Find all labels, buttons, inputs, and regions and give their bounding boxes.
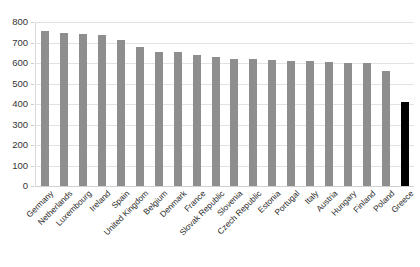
x-axis-labels: GermanyNetherlandsLuxembourgIrelandSpain… xyxy=(36,189,420,267)
y-tick-label: 500 xyxy=(0,79,28,89)
y-tick-mark xyxy=(31,186,34,187)
bar-luxembourg[interactable] xyxy=(79,34,87,186)
bar-ireland[interactable] xyxy=(98,35,106,186)
bar-france[interactable] xyxy=(193,55,201,186)
y-tick-mark xyxy=(31,22,34,23)
bar-czech-republic[interactable] xyxy=(249,59,257,186)
bars-container xyxy=(36,22,414,186)
y-tick-label: 300 xyxy=(0,120,28,130)
bar-netherlands[interactable] xyxy=(60,33,68,186)
y-tick-label: 400 xyxy=(0,99,28,109)
bar-greece[interactable] xyxy=(401,102,409,186)
bar-germany[interactable] xyxy=(41,31,49,186)
y-tick-mark xyxy=(31,43,34,44)
bar-poland[interactable] xyxy=(382,71,390,186)
y-tick-mark xyxy=(31,84,34,85)
bar-slovak-republic[interactable] xyxy=(212,57,220,186)
y-tick-label: 100 xyxy=(0,161,28,171)
y-tick-label: 0 xyxy=(0,181,28,191)
bar-belgium[interactable] xyxy=(155,52,163,186)
y-tick-mark xyxy=(31,145,34,146)
y-tick-mark xyxy=(31,125,34,126)
y-tick-mark xyxy=(31,104,34,105)
bar-denmark[interactable] xyxy=(174,52,182,186)
y-tick-label: 700 xyxy=(0,38,28,48)
bar-united-kingdom[interactable] xyxy=(136,47,144,186)
bar-chart: 8007006005004003002001000 GermanyNetherl… xyxy=(0,0,420,267)
y-tick-mark xyxy=(31,63,34,64)
y-tick-label: 600 xyxy=(0,58,28,68)
bar-spain[interactable] xyxy=(117,40,125,186)
bar-austria[interactable] xyxy=(325,62,333,186)
y-tick-label: 800 xyxy=(0,17,28,27)
y-tick-mark xyxy=(31,166,34,167)
bar-portugal[interactable] xyxy=(287,61,295,186)
bar-hungary[interactable] xyxy=(344,63,352,186)
gridline-0 xyxy=(36,186,414,187)
bar-slovenia[interactable] xyxy=(230,59,238,186)
y-tick-label: 200 xyxy=(0,140,28,150)
bar-finland[interactable] xyxy=(363,63,371,186)
bar-italy[interactable] xyxy=(306,61,314,186)
bar-estonia[interactable] xyxy=(268,60,276,186)
